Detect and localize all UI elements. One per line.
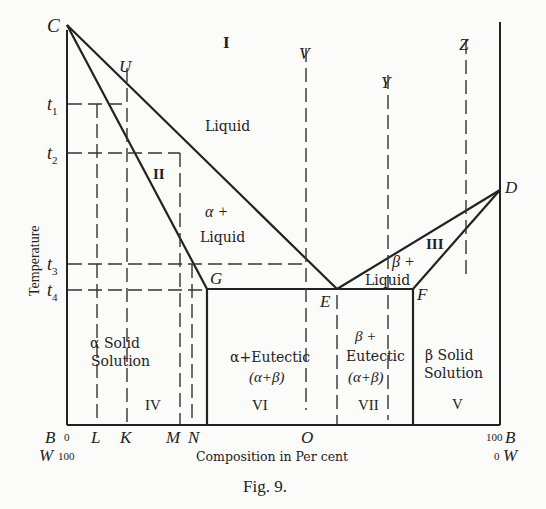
t1-label: t1 bbox=[47, 94, 58, 117]
point-d-label: D bbox=[504, 178, 518, 197]
point-c-label: C bbox=[47, 15, 60, 36]
region-beta-eutectic-label-2: Eutectic bbox=[346, 348, 405, 364]
t2-label: t2 bbox=[47, 143, 58, 166]
composition-o-label: O bbox=[301, 428, 313, 447]
right-axis-w-value: 0 bbox=[494, 450, 500, 462]
t4-label: t4 bbox=[47, 280, 58, 303]
x-axis-label: Composition in Per cent bbox=[196, 449, 348, 464]
region-iii-label: III bbox=[426, 236, 444, 252]
composition-m-label: M bbox=[165, 428, 181, 447]
phase-diagram: C D E F G U V Y Z t1 t2 t3 t4 Temperatur… bbox=[0, 0, 546, 509]
region-alpha-liquid-label-2: Liquid bbox=[200, 229, 245, 245]
left-axis-b-value: 0 bbox=[64, 431, 70, 443]
line-u-label: U bbox=[119, 57, 133, 76]
region-alpha-solid-label-1: α Solid bbox=[90, 335, 140, 351]
region-beta-liquid-label-2: Liquid bbox=[365, 272, 410, 288]
region-beta-solid-label-2: Solution bbox=[424, 365, 483, 381]
region-beta-eutectic-label-1: β + bbox=[354, 328, 376, 344]
y-axis-label: Temperature bbox=[27, 225, 42, 296]
region-vi-label: VI bbox=[252, 397, 268, 413]
line-z-label: Z bbox=[459, 35, 469, 54]
line-y-label: Y bbox=[381, 73, 392, 92]
region-beta-eutectic-label-3: (α+β) bbox=[348, 369, 383, 386]
left-axis-w-value: 100 bbox=[58, 450, 75, 462]
composition-l-label: L bbox=[90, 428, 100, 447]
point-e-label: E bbox=[319, 292, 331, 311]
region-alpha-eutectic-label-2: (α+β) bbox=[249, 369, 284, 386]
region-ii-label: II bbox=[153, 166, 165, 182]
left-axis-w-label: W bbox=[39, 446, 55, 465]
region-alpha-liquid-label-1: α + bbox=[205, 203, 228, 220]
left-axis-b-label: B bbox=[45, 428, 56, 447]
right-axis-b-value: 100 bbox=[486, 431, 503, 443]
t3-label: t3 bbox=[47, 254, 58, 277]
region-vii-label: VII bbox=[358, 397, 379, 413]
liquidus-line-right bbox=[337, 190, 500, 289]
liquidus-line-left bbox=[67, 25, 337, 289]
region-alpha-eutectic-label-1: α+Eutectic bbox=[230, 349, 310, 365]
right-axis-b-label: B bbox=[505, 428, 516, 447]
region-iv-label: IV bbox=[145, 397, 161, 413]
composition-n-label: N bbox=[187, 428, 201, 447]
point-f-label: F bbox=[416, 285, 428, 304]
right-axis-w-label: W bbox=[503, 446, 519, 465]
composition-k-label: K bbox=[119, 428, 133, 447]
solidus-line-left bbox=[67, 25, 207, 289]
line-v-label: V bbox=[299, 44, 312, 63]
region-v-label: V bbox=[452, 396, 463, 412]
region-beta-solid-label-1: β Solid bbox=[425, 347, 474, 363]
region-liquid-label: Liquid bbox=[205, 118, 250, 134]
region-beta-liquid-label-1: β + bbox=[391, 253, 415, 271]
point-g-label: G bbox=[210, 269, 222, 288]
region-alpha-solid-label-2: Solution bbox=[91, 353, 150, 369]
figure-caption: Fig. 9. bbox=[243, 477, 287, 496]
region-i-label: I bbox=[223, 33, 230, 52]
